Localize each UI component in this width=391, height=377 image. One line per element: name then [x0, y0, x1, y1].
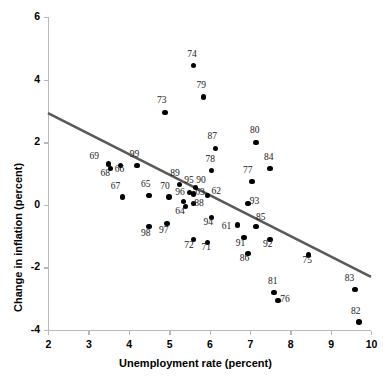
y-axis-line — [48, 17, 49, 330]
x-axis-title: Unemployment rate (percent) — [0, 357, 391, 369]
data-point-label: 66 — [115, 164, 125, 174]
x-tick-label: 6 — [195, 338, 226, 350]
data-point-label: 73 — [157, 95, 167, 105]
data-point-label: 75 — [302, 255, 312, 265]
x-tick-mark — [210, 331, 211, 335]
data-point-label: 91 — [236, 238, 246, 248]
data-point — [191, 63, 196, 68]
data-point — [249, 179, 254, 184]
data-point-label: 98 — [141, 228, 151, 238]
y-tick-label: 4 — [14, 73, 40, 85]
data-point — [162, 110, 167, 115]
data-point-label: 94 — [204, 217, 214, 227]
data-point-label: 65 — [141, 179, 151, 189]
data-point-label: 81 — [268, 276, 278, 286]
data-point-label: 68 — [101, 168, 111, 178]
data-point-label: 84 — [264, 152, 274, 162]
x-tick-mark — [88, 331, 89, 335]
data-point-label: 95 — [184, 175, 194, 185]
data-point-label: 87 — [208, 131, 218, 141]
data-point-label: 78 — [206, 154, 216, 164]
x-tick-mark — [331, 331, 332, 335]
data-point-label: 89 — [170, 168, 180, 178]
y-tick-mark — [44, 142, 48, 143]
data-point — [271, 290, 276, 295]
data-point-label: 71 — [201, 242, 211, 252]
data-point-label: 67 — [111, 181, 121, 191]
data-point — [235, 222, 240, 227]
data-point — [146, 193, 151, 198]
data-point-label: 86 — [240, 253, 250, 263]
data-point-label: 64 — [175, 206, 185, 216]
x-tick-mark — [129, 331, 130, 335]
data-point-label: 83 — [345, 273, 355, 283]
data-point-label: 76 — [280, 294, 290, 304]
scatter-plot-figure: -4-20246 2345678910 61626364656667686970… — [0, 0, 391, 377]
x-tick-label: 9 — [316, 338, 347, 350]
plot-area: -4-20246 2345678910 61626364656667686970… — [0, 0, 391, 377]
data-point-label: 70 — [160, 181, 170, 191]
x-tick-label: 3 — [73, 338, 104, 350]
data-point-label: 69 — [90, 151, 100, 161]
data-point — [213, 146, 218, 151]
data-point-label: 88 — [194, 198, 204, 208]
data-point — [267, 166, 272, 171]
data-point — [356, 319, 361, 324]
data-point — [209, 168, 214, 173]
data-point — [166, 194, 171, 199]
y-tick-mark — [44, 80, 48, 81]
x-tick-label: 8 — [275, 338, 306, 350]
data-point-label: 62 — [211, 186, 221, 196]
data-point-label: 90 — [196, 175, 206, 185]
data-point-label: 97 — [159, 225, 169, 235]
x-tick-mark — [169, 331, 170, 335]
data-point-label: 72 — [184, 240, 194, 250]
data-point — [106, 161, 111, 166]
y-tick-label: 6 — [14, 10, 40, 22]
y-tick-label: -4 — [14, 323, 40, 335]
data-point-label: 96 — [175, 187, 185, 197]
data-point — [253, 224, 258, 229]
data-point-label: 82 — [351, 306, 361, 316]
data-point — [134, 163, 139, 168]
data-point-label: 99 — [130, 149, 140, 159]
x-tick-mark — [250, 331, 251, 335]
y-tick-mark — [44, 17, 48, 18]
data-point-label: 85 — [256, 212, 266, 222]
data-point-label: 61 — [222, 221, 232, 231]
x-tick-label: 5 — [154, 338, 185, 350]
y-tick-label: 2 — [14, 135, 40, 147]
data-point-label: 74 — [187, 49, 197, 59]
data-point — [352, 287, 357, 292]
data-point — [187, 190, 192, 195]
data-point-label: 92 — [263, 239, 273, 249]
x-tick-label: 2 — [33, 338, 64, 350]
data-point — [201, 94, 206, 99]
data-point — [253, 140, 258, 145]
y-tick-mark — [44, 205, 48, 206]
x-tick-label: 7 — [235, 338, 266, 350]
x-tick-mark — [371, 331, 372, 335]
x-tick-label: 4 — [114, 338, 145, 350]
data-point-label: 79 — [196, 80, 206, 90]
y-axis-title: Change in inflation (percent) — [12, 163, 24, 312]
data-point-label: 80 — [250, 125, 260, 135]
x-tick-mark — [290, 331, 291, 335]
data-point — [120, 194, 125, 199]
x-tick-mark — [48, 331, 49, 335]
x-tick-label: 10 — [356, 338, 387, 350]
data-point-label: 93 — [250, 196, 260, 206]
y-tick-mark — [44, 267, 48, 268]
data-point — [205, 193, 210, 198]
data-point-label: 77 — [243, 165, 253, 175]
